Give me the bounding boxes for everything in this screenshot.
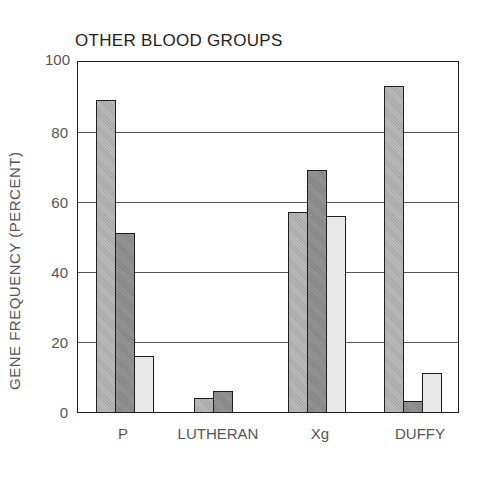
bar-p-series-2	[115, 233, 135, 412]
bar-lutheran-series-2	[213, 391, 233, 412]
y-axis-label: GENE FREQUENCY (PERCENT)	[6, 152, 23, 390]
y-tick-0: 0	[28, 404, 68, 421]
y-tick-60: 60	[28, 194, 68, 211]
bar-xg-series-1	[288, 212, 308, 412]
y-tick-40: 40	[28, 264, 68, 281]
y-tick-80: 80	[28, 124, 68, 141]
bar-duffy-series-1	[384, 86, 404, 412]
plot-area	[77, 61, 459, 413]
bar-duffy-series-3	[422, 373, 442, 412]
x-label-p: P	[118, 425, 128, 442]
bar-xg-series-2	[307, 170, 327, 412]
bar-duffy-series-2	[403, 401, 423, 412]
y-tick-100: 100	[30, 51, 70, 68]
bar-xg-series-3	[326, 216, 346, 412]
bar-p-series-3	[134, 356, 154, 412]
x-label-lutheran: LUTHERAN	[178, 425, 259, 442]
x-label-duffy: DUFFY	[395, 425, 445, 442]
chart-title: OTHER BLOOD GROUPS	[75, 31, 283, 51]
x-label-xg: Xg	[311, 425, 329, 442]
y-tick-20: 20	[28, 334, 68, 351]
bar-lutheran-series-1	[194, 398, 214, 412]
bar-p-series-1	[96, 100, 116, 412]
